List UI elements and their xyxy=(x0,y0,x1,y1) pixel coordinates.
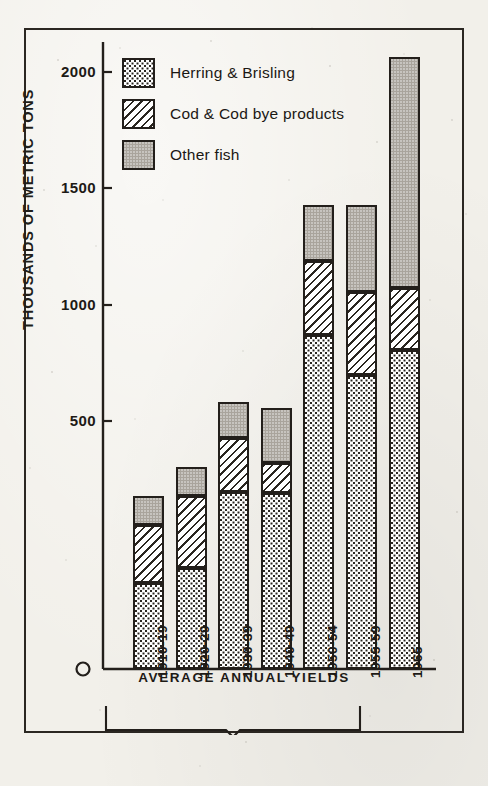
figure-frame: 2000 1500 1000 500 THOUSANDS OF METRIC T… xyxy=(24,28,464,733)
bar-segment-1930-39-solid xyxy=(218,402,249,438)
x-axis-title: AVERAGE ANNUAL YIELDS xyxy=(26,670,462,685)
bar-segment-1940-49-solid xyxy=(261,408,292,463)
legend-label-cod: Cod & Cod bye products xyxy=(170,105,344,123)
y-tick-1500: 1500 xyxy=(26,179,96,196)
legend-swatch-solid-icon xyxy=(122,140,155,170)
bar-segment-1950-54-hatch xyxy=(303,261,334,335)
y-tick-500: 500 xyxy=(26,412,96,429)
bar-segment-1955-59-hatch xyxy=(346,292,377,375)
bar-segment-1965-solid xyxy=(389,57,420,288)
bar-segment-1910-19-solid xyxy=(133,496,164,525)
y-tick-1000: 1000 xyxy=(26,296,96,313)
legend-swatch-hatch-icon xyxy=(122,99,155,129)
bar-segment-1920-29-hatch xyxy=(176,496,207,568)
legend-item-herring: Herring & Brisling xyxy=(122,52,382,93)
bar-segment-1965-dots xyxy=(389,350,420,669)
page-background: 2000 1500 1000 500 THOUSANDS OF METRIC T… xyxy=(0,0,488,786)
bar-segment-1920-29-solid xyxy=(176,467,207,496)
y-axis-title: THOUSANDS OF METRIC TONS xyxy=(20,0,36,330)
y-tick-2000: 2000 xyxy=(26,63,96,80)
bar-segment-1930-39-hatch xyxy=(218,438,249,492)
bar-segment-1950-54-dots xyxy=(303,335,334,669)
legend: Herring & Brisling Cod & Cod bye product… xyxy=(122,52,382,175)
bar-segment-1950-54-solid xyxy=(303,205,334,261)
plot-area: 2000 1500 1000 500 THOUSANDS OF METRIC T… xyxy=(26,30,462,731)
bar-segment-1940-49-hatch xyxy=(261,463,292,493)
legend-swatch-dots-icon xyxy=(122,58,155,88)
bar-segment-1955-59-solid xyxy=(346,205,377,292)
legend-item-cod: Cod & Cod bye products xyxy=(122,93,382,134)
legend-item-other: Other fish xyxy=(122,134,382,175)
bar-segment-1965-hatch xyxy=(389,288,420,350)
legend-label-herring: Herring & Brisling xyxy=(170,64,295,82)
legend-label-other: Other fish xyxy=(170,146,240,164)
bar-segment-1910-19-hatch xyxy=(133,525,164,583)
